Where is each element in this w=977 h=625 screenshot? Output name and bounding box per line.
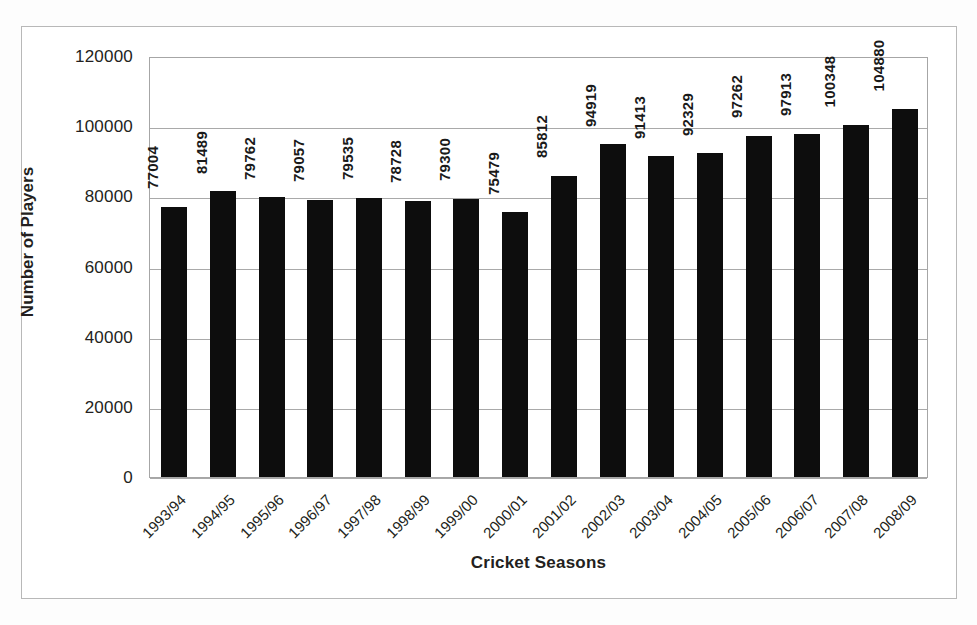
bar-value-label: 79762 [241,136,258,181]
bar[interactable] [794,134,820,478]
bar[interactable] [551,176,577,477]
x-axis-tick-label: 2000/01 [474,491,530,547]
bar-value-label: 94919 [582,83,599,128]
bar[interactable] [161,207,187,477]
y-axis-tick-labels: 020000400006000080000100000120000 [21,57,143,478]
x-axis-tick-label: 1998/99 [377,491,433,547]
bar[interactable] [453,199,479,477]
bar-value-label: 92329 [679,92,696,137]
bar-value-label: 104880 [869,39,886,93]
y-axis-tick-label: 80000 [85,187,133,207]
bar-value-label: 97913 [776,72,793,117]
y-axis-tick-label: 120000 [75,47,133,67]
bar[interactable] [648,156,674,477]
y-axis-tick-label: 0 [123,468,133,488]
y-axis-tick-label: 20000 [85,398,133,418]
x-axis-tick-label: 2007/08 [815,491,871,547]
x-axis-tick-label: 2003/04 [620,491,676,547]
x-axis-tick-label: 2004/05 [669,491,725,547]
bar-value-label: 97262 [728,74,745,119]
x-axis-tick-label: 1999/00 [426,491,482,547]
x-axis-tick-label: 1997/98 [328,491,384,547]
bar[interactable] [405,201,431,477]
y-axis-title: Number of Players [18,142,38,342]
bar[interactable] [746,136,772,477]
x-axis-tick-label: 2005/06 [718,491,774,547]
bar-value-label: 79535 [338,136,355,181]
bar-value-label: 81489 [192,130,209,175]
bar-value-label: 100348 [820,54,837,108]
bar[interactable] [307,200,333,477]
x-axis-tick-label: 2008/09 [864,491,920,547]
bar[interactable] [697,153,723,477]
bar[interactable] [600,144,626,477]
bar-value-label: 79300 [435,137,452,182]
y-axis-tick-label: 100000 [75,117,133,137]
bar[interactable] [843,125,869,477]
bar-value-label: 77004 [143,145,160,190]
x-axis-tick-labels: 1993/941994/951995/961996/971997/981998/… [149,479,928,559]
bar-value-label: 75479 [484,151,501,196]
x-axis-tick-label: 2001/02 [523,491,579,547]
y-axis-tick-label: 60000 [85,258,133,278]
bar-value-label: 91413 [630,95,647,140]
x-axis-title: Cricket Seasons [149,553,928,573]
x-axis-tick-label: 2006/07 [766,491,822,547]
x-axis-tick-label: 1995/96 [231,491,287,547]
bar[interactable] [502,212,528,477]
x-axis-tick-label: 2002/03 [572,491,628,547]
x-axis-tick-label: 1996/97 [280,491,336,547]
x-axis-tick-label: 1994/95 [182,491,238,547]
bar[interactable] [356,198,382,477]
plot-area: 7700481489797627905779535787287930075479… [149,57,928,478]
bar-value-label: 79057 [289,138,306,183]
bar[interactable] [259,197,285,477]
bar[interactable] [892,109,918,477]
y-axis-tick-label: 40000 [85,328,133,348]
bar-value-label: 85812 [533,114,550,159]
bar[interactable] [210,191,236,477]
bar-value-label: 78728 [387,139,404,184]
chart-figure: 020000400006000080000100000120000 Number… [0,0,977,625]
